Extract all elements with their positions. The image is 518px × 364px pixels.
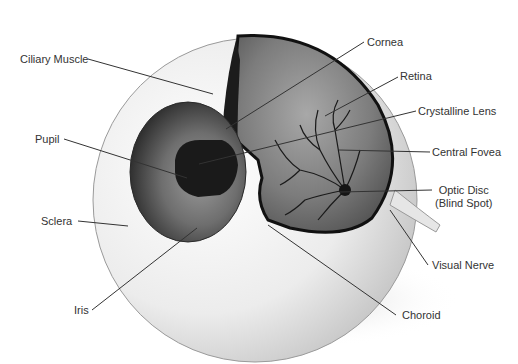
- label-sclera: Sclera: [41, 215, 72, 228]
- label-central-fovea: Central Fovea: [432, 146, 501, 159]
- label-optic-disc-line1: Optic Disc: [435, 184, 492, 197]
- label-pupil: Pupil: [35, 133, 59, 146]
- pupil-lens: [175, 140, 238, 197]
- label-crystalline-lens: Crystalline Lens: [418, 105, 496, 118]
- label-retina: Retina: [400, 70, 432, 83]
- label-cornea: Cornea: [367, 36, 403, 49]
- label-visual-nerve: Visual Nerve: [432, 259, 494, 272]
- label-optic-disc-line2: (Blind Spot): [435, 197, 492, 210]
- cutaway-interior: [236, 36, 393, 233]
- label-ciliary-muscle: Ciliary Muscle: [20, 53, 88, 66]
- label-iris: Iris: [74, 304, 89, 317]
- label-optic-disc: Optic Disc (Blind Spot): [435, 184, 492, 210]
- label-choroid: Choroid: [402, 309, 441, 322]
- optic-disc: [339, 184, 351, 196]
